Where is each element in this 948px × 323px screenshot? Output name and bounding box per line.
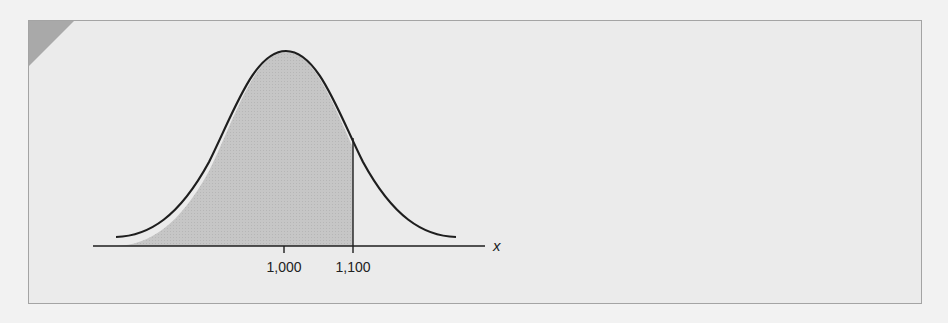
tick-label-mean: 1,000	[266, 259, 301, 275]
chart-panel: 1,000 1,100 x	[28, 20, 922, 304]
x-axis-label: x	[492, 237, 501, 254]
normal-curve-plot: 1,000 1,100 x	[29, 21, 922, 304]
tick-label-cutoff: 1,100	[335, 259, 370, 275]
